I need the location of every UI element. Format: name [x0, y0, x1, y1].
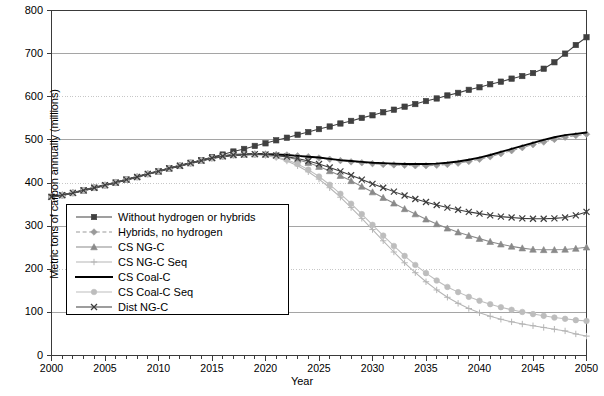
data-point-marker: [402, 104, 407, 109]
data-point-marker: [284, 157, 290, 163]
data-point-marker: [562, 316, 568, 322]
data-point-marker: [91, 228, 98, 235]
data-point-marker: [498, 304, 504, 310]
legend-swatch: [73, 285, 115, 299]
legend-swatch: [73, 210, 115, 224]
data-point-marker: [477, 85, 482, 90]
data-point-marker: [552, 315, 558, 321]
data-point-marker: [541, 66, 546, 71]
data-point-marker: [370, 181, 376, 187]
legend-swatch: [73, 300, 115, 314]
data-point-marker: [487, 301, 493, 307]
data-point-marker: [477, 298, 483, 304]
x-tick-label: 2010: [139, 362, 179, 374]
data-point-marker: [455, 289, 461, 295]
legend-item: Hybrids, no hydrogen: [67, 224, 288, 239]
x-axis-title: Year: [0, 375, 604, 387]
data-point-marker: [380, 185, 386, 191]
data-point-marker: [401, 206, 408, 212]
legend-label: CS Coal-C Seq: [115, 285, 193, 299]
data-point-marker: [434, 278, 440, 284]
data-point-marker: [338, 121, 343, 126]
plot-area: [0, 0, 604, 396]
data-point-marker: [252, 143, 257, 148]
data-point-marker: [530, 323, 536, 329]
legend-label: Hybrids, no hydrogen: [115, 225, 223, 239]
data-point-marker: [434, 96, 439, 101]
data-point-marker: [562, 328, 568, 334]
y-axis-title: Metric tons of carbon annually (millions…: [48, 34, 60, 334]
data-point-marker: [466, 305, 472, 311]
data-point-marker: [391, 200, 398, 206]
data-point-marker: [519, 321, 525, 327]
data-point-marker: [562, 51, 567, 56]
legend-swatch: [73, 255, 115, 269]
data-point-marker: [391, 107, 396, 112]
data-point-marker: [391, 243, 397, 249]
x-tick-label: 2000: [32, 362, 72, 374]
y-tick-label: 800: [3, 4, 43, 16]
data-point-marker: [445, 284, 451, 290]
data-point-marker: [423, 216, 430, 222]
legend-label: CS NG-C: [115, 240, 164, 254]
y-tick-label: 200: [3, 262, 43, 274]
data-point-marker: [380, 194, 387, 200]
chart-legend: Without hydrogen or hybridsHybrids, no h…: [66, 204, 289, 315]
data-point-marker: [573, 42, 578, 47]
data-point-marker: [487, 313, 493, 319]
data-point-marker: [508, 319, 514, 325]
data-point-marker: [552, 60, 557, 65]
legend-label: Without hydrogen or hybrids: [115, 210, 256, 224]
data-point-marker: [348, 201, 354, 207]
legend-item: CS NG-C Seq: [67, 254, 288, 269]
legend-item: CS Coal-C Seq: [67, 284, 288, 299]
data-point-marker: [584, 318, 590, 324]
data-point-marker: [455, 90, 460, 95]
legend-item: Without hydrogen or hybrids: [67, 209, 288, 224]
data-point-marker: [402, 253, 408, 259]
data-point-marker: [359, 183, 366, 189]
legend-label: Dist NG-C: [115, 300, 168, 314]
data-point-marker: [412, 211, 419, 217]
legend-item: Dist NG-C: [67, 299, 288, 314]
data-point-marker: [551, 326, 557, 332]
data-point-marker: [423, 98, 428, 103]
data-point-marker: [263, 141, 268, 146]
x-tick-label: 2015: [192, 362, 232, 374]
data-point-marker: [370, 222, 376, 228]
y-tick-label: 400: [3, 176, 43, 188]
data-point-marker: [327, 182, 333, 188]
data-point-marker: [573, 331, 579, 337]
data-point-marker: [509, 307, 515, 313]
data-point-marker: [91, 289, 97, 295]
data-point-marker: [369, 189, 376, 195]
x-tick-label: 2005: [85, 362, 125, 374]
data-point-marker: [359, 115, 364, 120]
y-tick-label: 700: [3, 47, 43, 59]
data-point-marker: [391, 189, 397, 195]
data-point-marker: [433, 221, 440, 227]
data-point-marker: [274, 138, 279, 143]
y-tick-label: 0: [3, 349, 43, 361]
legend-label: CS NG-C Seq: [115, 255, 187, 269]
data-point-marker: [327, 124, 332, 129]
data-point-marker: [306, 167, 312, 173]
data-point-marker: [316, 126, 321, 131]
data-point-marker: [530, 311, 536, 317]
data-point-marker: [444, 294, 450, 300]
x-tick-label: 2020: [246, 362, 286, 374]
legend-label: CS Coal-C: [115, 270, 171, 284]
data-point-marker: [316, 174, 322, 180]
x-tick-label: 2040: [460, 362, 500, 374]
x-tick-label: 2045: [513, 362, 553, 374]
data-point-marker: [295, 161, 301, 167]
x-tick-label: 2025: [299, 362, 339, 374]
y-tick-label: 100: [3, 305, 43, 317]
y-tick-label: 500: [3, 133, 43, 145]
legend-swatch: [73, 240, 115, 254]
data-point-marker: [423, 270, 429, 276]
data-point-marker: [380, 233, 386, 239]
data-point-marker: [583, 333, 589, 339]
data-point-marker: [520, 73, 525, 78]
data-point-marker: [476, 310, 482, 316]
